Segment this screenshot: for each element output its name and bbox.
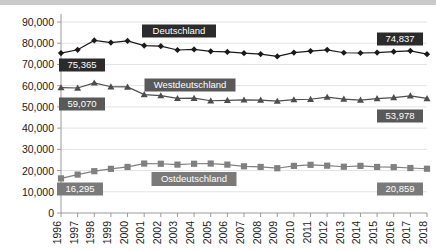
- marker-ostdeutschland: [407, 165, 413, 171]
- marker-deutschland: [357, 50, 363, 56]
- marker-ostdeutschland: [141, 160, 147, 166]
- marker-ostdeutschland: [424, 166, 430, 172]
- marker-deutschland: [374, 49, 380, 55]
- marker-ostdeutschland: [58, 175, 64, 181]
- x-axis-tick-label: 2006: [217, 221, 229, 245]
- x-axis-tick-label: 1998: [84, 221, 96, 245]
- marker-deutschland: [75, 47, 81, 53]
- marker-deutschland: [224, 49, 230, 55]
- line-chart: 010,00020,00030,00040,00050,00060,00070,…: [0, 0, 436, 250]
- marker-deutschland: [174, 47, 180, 53]
- marker-westdeutschland: [407, 92, 414, 98]
- marker-ostdeutschland: [191, 161, 197, 167]
- x-axis-tick-label: 2000: [118, 221, 130, 245]
- marker-ostdeutschland: [158, 161, 164, 167]
- x-axis-tick-label: 1997: [68, 221, 80, 245]
- value-badge-westdeutschland-start: 59,070: [67, 98, 96, 109]
- marker-ostdeutschland: [258, 164, 264, 170]
- series-label-westdeutschland: Westdeutschland: [154, 79, 227, 90]
- y-axis-tick-label: 50,000: [22, 101, 54, 113]
- x-axis-tick-label: 2003: [167, 221, 179, 245]
- marker-deutschland: [191, 46, 197, 52]
- x-axis-tick-label: 2016: [384, 221, 396, 245]
- value-badge-ostdeutschland-end: 20,859: [385, 183, 414, 194]
- marker-deutschland: [391, 49, 397, 55]
- y-axis-tick-label: 30,000: [22, 143, 54, 155]
- x-axis-tick-label: 2014: [350, 221, 362, 245]
- marker-ostdeutschland: [374, 164, 380, 170]
- value-badge-ostdeutschland-start: 16,295: [65, 183, 94, 194]
- marker-ostdeutschland: [391, 164, 397, 170]
- marker-ostdeutschland: [75, 171, 81, 177]
- x-axis-tick-label: 2008: [251, 221, 263, 245]
- x-axis-tick-label: 2012: [317, 221, 329, 245]
- marker-deutschland: [91, 37, 97, 43]
- x-axis-tick-label: 2004: [184, 221, 196, 245]
- y-axis-tick-label: 0: [48, 207, 54, 219]
- marker-deutschland: [324, 47, 330, 53]
- marker-ostdeutschland: [241, 163, 247, 169]
- marker-ostdeutschland: [274, 165, 280, 171]
- y-axis-tick-label: 90,000: [22, 16, 54, 28]
- marker-deutschland: [158, 43, 164, 49]
- x-axis-tick-label: 2013: [334, 221, 346, 245]
- marker-deutschland: [307, 48, 313, 54]
- marker-ostdeutschland: [291, 163, 297, 169]
- marker-deutschland: [407, 48, 413, 54]
- value-badge-deutschland-end: 74,837: [385, 33, 414, 44]
- x-axis-tick-label: 2009: [267, 221, 279, 245]
- marker-deutschland: [341, 50, 347, 56]
- x-axis-tick-label: 2001: [134, 221, 146, 245]
- series-label-deutschland: Deutschland: [153, 25, 206, 36]
- marker-deutschland: [424, 51, 430, 57]
- marker-deutschland: [241, 50, 247, 56]
- marker-deutschland: [58, 50, 64, 56]
- x-axis-tick-label: 2002: [151, 221, 163, 245]
- marker-ostdeutschland: [124, 164, 130, 170]
- marker-ostdeutschland: [208, 160, 214, 166]
- marker-ostdeutschland: [224, 162, 230, 168]
- marker-westdeutschland: [324, 94, 331, 100]
- series-label-ostdeutschland: Ostdeutschland: [161, 173, 227, 184]
- marker-deutschland: [208, 48, 214, 54]
- marker-ostdeutschland: [108, 166, 114, 172]
- x-axis-tick-label: 2018: [417, 221, 429, 245]
- value-badge-westdeutschland-end: 53,978: [385, 110, 414, 121]
- y-axis-tick-label: 40,000: [22, 122, 54, 134]
- x-axis-tick-label: 2011: [301, 221, 313, 244]
- marker-deutschland: [108, 39, 114, 45]
- marker-ostdeutschland: [174, 162, 180, 168]
- marker-ostdeutschland: [307, 162, 313, 168]
- marker-ostdeutschland: [324, 163, 330, 169]
- chart-container: 010,00020,00030,00040,00050,00060,00070,…: [0, 0, 436, 250]
- marker-ostdeutschland: [357, 163, 363, 169]
- marker-deutschland: [258, 51, 264, 57]
- x-axis-tick-label: 2010: [284, 221, 296, 245]
- x-axis-tick-label: 2005: [201, 221, 213, 245]
- y-axis-tick-label: 60,000: [22, 80, 54, 92]
- x-axis-tick-label: 1999: [101, 221, 113, 245]
- marker-deutschland: [291, 49, 297, 55]
- marker-westdeutschland: [91, 79, 98, 85]
- y-axis-tick-label: 10,000: [22, 186, 54, 198]
- marker-ostdeutschland: [341, 164, 347, 170]
- y-axis-tick-label: 20,000: [22, 165, 54, 177]
- y-axis-tick-label: 70,000: [22, 58, 54, 70]
- y-axis-tick-label: 80,000: [22, 37, 54, 49]
- x-axis-tick-label: 2007: [234, 221, 246, 245]
- value-badge-deutschland-start: 75,365: [67, 59, 96, 70]
- marker-deutschland: [274, 53, 280, 59]
- marker-ostdeutschland: [91, 168, 97, 174]
- x-axis-tick-label: 2017: [400, 221, 412, 245]
- x-axis-tick-label: 2015: [367, 221, 379, 245]
- x-axis-tick-label: 1996: [51, 221, 63, 245]
